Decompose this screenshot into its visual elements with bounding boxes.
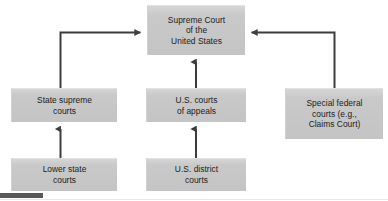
connector-state-supreme-to-supreme-court (61, 33, 141, 89)
node-us-district-courts[interactable]: U.S. district courts (146, 158, 246, 191)
node-us-district-courts-label: U.S. district courts (172, 164, 221, 185)
node-supreme-court-label: Supreme Court of the United States (165, 15, 228, 47)
node-lower-state-courts-label: Lower state courts (40, 164, 90, 185)
node-us-courts-of-appeals[interactable]: U.S. courts of appeals (146, 88, 246, 122)
node-state-supreme-courts[interactable]: State supreme courts (11, 88, 117, 122)
court-system-diagram: Supreme Court of the United States State… (0, 0, 388, 201)
node-lower-state-courts[interactable]: Lower state courts (11, 158, 117, 191)
node-supreme-court[interactable]: Supreme Court of the United States (147, 5, 245, 55)
node-special-federal-courts[interactable]: Special federal courts (e.g., Claims Cou… (285, 88, 383, 139)
node-special-federal-courts-label: Special federal courts (e.g., Claims Cou… (303, 98, 365, 130)
bottom-left-marker-bar (0, 193, 43, 198)
node-state-supreme-courts-label: State supreme courts (34, 95, 95, 116)
bottom-divider (0, 199, 388, 200)
node-us-courts-of-appeals-label: U.S. courts of appeals (173, 95, 221, 116)
connector-special-federal-to-supreme-court (252, 33, 335, 89)
